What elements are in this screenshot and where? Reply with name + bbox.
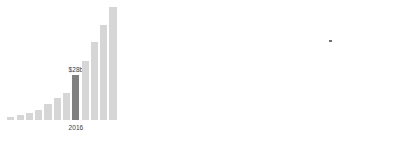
bar[interactable] xyxy=(44,104,51,120)
bar[interactable] xyxy=(17,115,24,120)
bar-highlighted[interactable] xyxy=(72,75,79,120)
bar[interactable] xyxy=(100,25,107,120)
image-artifact-speck xyxy=(329,40,332,42)
bar[interactable] xyxy=(26,113,33,120)
chart-plot-area: $28b2016 xyxy=(0,0,407,145)
bar[interactable] xyxy=(35,110,42,120)
bar-category-label: 2016 xyxy=(64,124,87,131)
bar[interactable] xyxy=(63,93,70,120)
bar[interactable] xyxy=(82,61,89,120)
bar[interactable] xyxy=(109,7,116,120)
bar-chart: $28b2016 xyxy=(0,0,407,145)
bar[interactable] xyxy=(91,42,98,120)
bar[interactable] xyxy=(54,98,61,120)
bar[interactable] xyxy=(7,117,14,120)
